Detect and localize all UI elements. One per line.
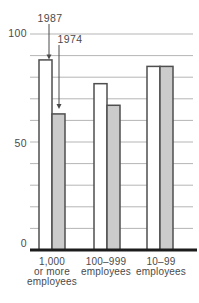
annotation-label-1974: 1974 <box>46 34 94 45</box>
bar-1987-category-2 <box>147 66 160 250</box>
y-tick-label-0: 0 <box>3 238 27 249</box>
y-tick-label-50: 50 <box>3 138 27 149</box>
bar-1987-category-1 <box>94 84 107 250</box>
y-tick-label-100: 100 <box>3 28 27 39</box>
arrow-1974-head <box>57 104 62 109</box>
bar-1974-category-0 <box>52 114 65 250</box>
bar-1974-category-1 <box>107 105 120 250</box>
x-category-label-10-99: 10–99 employees <box>121 257 199 277</box>
category-line: employees <box>12 277 92 287</box>
arrow-1987-head <box>47 54 52 59</box>
annotation-label-1987: 1987 <box>26 13 74 24</box>
bar-1987-category-0 <box>39 60 52 250</box>
bar-chart-figure: 100 50 0 1987 1974 1,000 or more employe… <box>0 0 199 303</box>
bar-1974-category-2 <box>160 66 173 250</box>
category-line: employees <box>121 267 199 277</box>
